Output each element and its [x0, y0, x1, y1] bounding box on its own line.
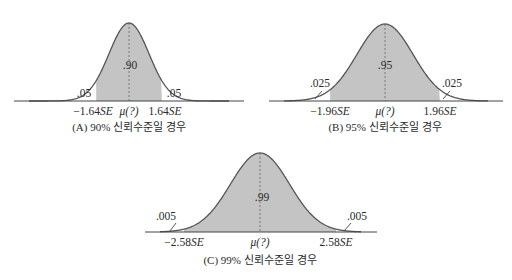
- panel-c-center-tick: μ(?): [249, 236, 269, 249]
- panel-c-left-tail-label: .005: [156, 210, 176, 222]
- panel-c-left-tick: −2.58SE: [164, 236, 203, 248]
- panel-c: .99 .005 .005 −2.58SE μ(?) 2.58SE (C) 99…: [145, 153, 377, 267]
- panel-b-left-tail-label: .025: [310, 77, 330, 89]
- panel-c-left-tail-marker: [170, 223, 176, 231]
- panel-a-center-label: .90: [123, 59, 138, 71]
- panel-a-left-tail-label: .05: [77, 87, 92, 99]
- panel-b-right-tick: 1.96SE: [424, 105, 457, 117]
- panel-a-right-tail-label: .05: [167, 87, 182, 99]
- panel-c-right-tail-label: .005: [347, 210, 367, 222]
- panel-b-right-tail-label: .025: [442, 77, 462, 89]
- panel-b: .95 .025 .025 −1.96SE μ(?) 1.96SE (B) 95…: [269, 24, 503, 134]
- panel-c-right-tick: 2.58SE: [320, 236, 353, 248]
- panel-c-center-label: .99: [255, 191, 270, 203]
- panel-b-left-tick: −1.96SE: [310, 105, 349, 117]
- panel-a-caption: (A) 90% 신뢰수준일 경우: [72, 120, 186, 134]
- panel-a-center-tick: μ(?): [118, 105, 138, 118]
- panel-b-center-tick: μ(?): [374, 105, 394, 118]
- panel-b-caption: (B) 95% 신뢰수준일 경우: [328, 120, 441, 134]
- confidence-interval-figure: .90 .05 .05 −1.64SE μ(?) 1.64SE (A) 90% …: [0, 0, 512, 280]
- panel-c-right-tail-marker: [344, 223, 351, 231]
- panel-c-caption: (C) 99% 신뢰수준일 경우: [203, 253, 316, 267]
- panel-a-left-tick: −1.64SE: [73, 105, 112, 117]
- panel-b-center-label: .95: [378, 59, 393, 71]
- panel-a-right-tick: 1.64SE: [149, 105, 182, 117]
- panel-a: .90 .05 .05 −1.64SE μ(?) 1.64SE (A) 90% …: [14, 23, 244, 134]
